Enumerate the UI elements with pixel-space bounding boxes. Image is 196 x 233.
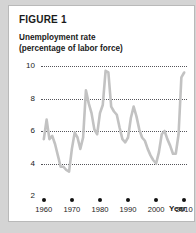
- chart-plot-area: 108642 196019701980199020002010: [19, 60, 189, 210]
- x-axis-tick-label: 1970: [57, 206, 87, 214]
- x-axis-tick-dot: [182, 198, 186, 202]
- figure-title: FIGURE 1: [19, 14, 67, 25]
- x-axis-tick-dot: [70, 198, 74, 202]
- x-axis-tick-dot: [154, 198, 158, 202]
- y-axis-tick-label: 10: [19, 62, 35, 70]
- y-axis-tick-label: 2: [19, 192, 35, 200]
- figure-card: FIGURE 1 Unemployment rate (percentage o…: [8, 5, 195, 222]
- y-axis-tick-label: 8: [19, 95, 35, 103]
- x-axis-tick-label: 1980: [85, 206, 115, 214]
- x-axis-tick-dot: [42, 198, 46, 202]
- x-axis-tick-dot: [98, 198, 102, 202]
- y-axis-tick-label: 4: [19, 160, 35, 168]
- figure-subtitle-line-1: Unemployment rate: [19, 32, 123, 43]
- series-line-unemployment-rate: [44, 71, 184, 172]
- x-axis-title: Year: [169, 204, 186, 213]
- x-axis-tick-label: 1990: [113, 206, 143, 214]
- x-axis-tick-label: 1960: [29, 206, 59, 214]
- x-axis-tick-dot: [126, 198, 130, 202]
- figure-subtitle: Unemployment rate (percentage of labor f…: [19, 32, 123, 54]
- y-axis-tick-label: 6: [19, 127, 35, 135]
- unemployment-line-chart: [41, 60, 187, 200]
- figure-subtitle-line-2: (percentage of labor force): [19, 43, 123, 54]
- x-axis-tick-label: 2000: [141, 206, 171, 214]
